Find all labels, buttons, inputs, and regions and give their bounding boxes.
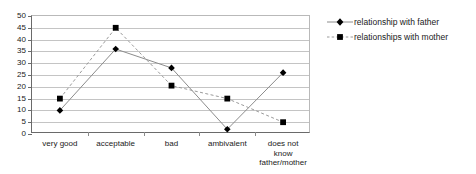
y-axis-label: 10 — [17, 106, 26, 114]
x-axis-label: bad — [165, 139, 178, 149]
chart-legend: relationship with father relationships w… — [326, 14, 476, 44]
y-axis-label: 45 — [17, 24, 26, 32]
x-axis-label: ambivalent — [208, 139, 247, 149]
data-point[interactable] — [224, 96, 230, 102]
legend-marker-square-icon — [326, 31, 354, 43]
data-point[interactable] — [280, 119, 286, 125]
series-layer — [32, 16, 311, 134]
y-axis-label: 5 — [22, 118, 26, 126]
legend-item-mother[interactable]: relationships with mother — [326, 29, 476, 44]
x-axis-label: does not know father/mother — [259, 139, 307, 168]
y-axis-label: 20 — [17, 83, 26, 91]
y-axis-label: 0 — [22, 130, 26, 138]
data-point[interactable] — [113, 25, 119, 31]
data-point[interactable] — [57, 96, 63, 102]
series-line-father — [60, 49, 283, 129]
y-axis-label: 40 — [17, 36, 26, 44]
legend-item-father[interactable]: relationship with father — [326, 14, 476, 29]
y-axis-label: 30 — [17, 59, 26, 67]
x-axis-label: very good — [42, 139, 77, 149]
line-chart: 50454035302520151050 very goodacceptable… — [0, 0, 330, 174]
y-axis-label: 35 — [17, 47, 26, 55]
chart-page: 50454035302520151050 very goodacceptable… — [0, 0, 476, 174]
legend-label-father: relationship with father — [354, 17, 439, 27]
x-axis-label: acceptable — [96, 139, 135, 149]
y-axis-label: 50 — [17, 12, 26, 20]
y-axis-tick — [28, 134, 32, 135]
data-point[interactable] — [169, 83, 175, 89]
plot-area: 50454035302520151050 very goodacceptable… — [31, 15, 310, 133]
series-line-mother — [60, 28, 283, 122]
y-axis-label: 25 — [17, 71, 26, 79]
legend-marker-diamond-icon — [326, 16, 354, 28]
y-axis-label: 15 — [17, 95, 26, 103]
legend-label-mother: relationships with mother — [354, 32, 448, 42]
